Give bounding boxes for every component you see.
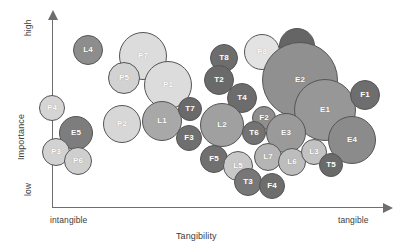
bubble-label: E5 bbox=[71, 129, 81, 137]
bubble-f1[interactable]: F1 bbox=[350, 80, 380, 110]
x-axis-tick-intangible: intangible bbox=[50, 215, 87, 225]
bubble-label: T5 bbox=[326, 161, 335, 169]
bubble-label: L3 bbox=[309, 148, 318, 156]
bubble-p2[interactable]: P2 bbox=[103, 105, 141, 143]
bubble-p5[interactable]: P5 bbox=[108, 62, 140, 94]
bubble-label: P1 bbox=[163, 81, 173, 89]
bubble-label: L4 bbox=[83, 46, 92, 54]
bubble-label: P6 bbox=[73, 157, 83, 165]
bubble-label: E3 bbox=[281, 129, 291, 137]
bubble-label: L7 bbox=[263, 153, 272, 161]
bubble-label: F4 bbox=[267, 182, 276, 190]
bubble-label: T2 bbox=[214, 76, 223, 84]
bubble-t7[interactable]: T7 bbox=[178, 97, 202, 121]
bubble-label: F1 bbox=[360, 91, 369, 99]
bubble-label: E4 bbox=[347, 136, 357, 144]
bubble-label: E2 bbox=[295, 76, 305, 84]
bubble-l2[interactable]: L2 bbox=[200, 103, 244, 147]
bubble-label: P3 bbox=[51, 148, 61, 156]
bubble-l4[interactable]: L4 bbox=[73, 35, 103, 65]
bubble-f3[interactable]: F3 bbox=[176, 125, 202, 151]
x-axis-line bbox=[52, 207, 384, 208]
y-axis-arrow-icon bbox=[48, 10, 58, 20]
bubble-p6[interactable]: P6 bbox=[64, 147, 92, 175]
bubble-label: T6 bbox=[249, 129, 258, 137]
bubble-label: T3 bbox=[243, 178, 252, 186]
y-axis-tick-high: high bbox=[23, 20, 33, 36]
bubble-t6[interactable]: T6 bbox=[242, 121, 266, 145]
x-axis-title: Tangibility bbox=[176, 231, 217, 241]
x-axis-arrow-icon bbox=[383, 203, 393, 213]
bubble-label: F2 bbox=[259, 114, 268, 122]
bubble-label: P4 bbox=[47, 104, 57, 112]
bubble-label: P2 bbox=[117, 120, 127, 128]
bubble-f4[interactable]: F4 bbox=[259, 173, 285, 199]
bubble-label: L1 bbox=[157, 117, 166, 125]
bubble-t3[interactable]: T3 bbox=[234, 168, 262, 196]
bubble-label: E1 bbox=[320, 106, 330, 114]
bubble-label: T7 bbox=[185, 105, 194, 113]
bubble-label: P8 bbox=[257, 48, 267, 56]
y-axis-tick-low: low bbox=[23, 183, 33, 196]
bubble-label: L6 bbox=[287, 158, 296, 166]
bubble-p4[interactable]: P4 bbox=[39, 95, 65, 121]
x-axis-tick-tangible: tangible bbox=[338, 215, 369, 225]
bubble-label: F5 bbox=[209, 155, 218, 163]
bubble-label: F3 bbox=[184, 134, 193, 142]
bubble-label: P7 bbox=[138, 52, 148, 60]
bubble-label: L2 bbox=[217, 121, 226, 129]
bubble-chart: high low Importance intangible tangible … bbox=[0, 0, 407, 252]
bubble-label: T4 bbox=[237, 94, 246, 102]
y-axis-title: Importance bbox=[16, 114, 26, 160]
bubble-t5[interactable]: T5 bbox=[319, 153, 343, 177]
bubble-label: P5 bbox=[119, 74, 129, 82]
bubble-label: T8 bbox=[219, 54, 228, 62]
